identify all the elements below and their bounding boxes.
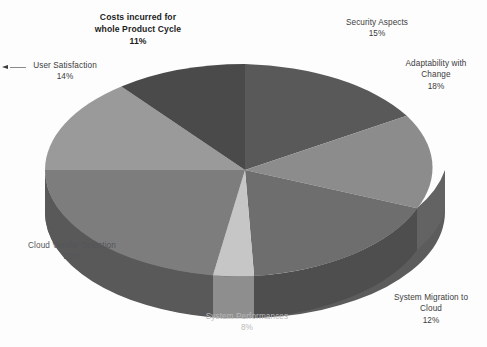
pie-label-performance-name: System Performances	[206, 312, 288, 321]
pie-label-vendor-name: Cloud Vendor Selection	[28, 241, 116, 250]
pie-label-vendor-pct: 22%	[8, 251, 136, 262]
pie-label-security: Security Aspects 15%	[318, 17, 436, 40]
pie-label-satisfaction: User Satisfaction 14%	[10, 60, 120, 83]
pie-label-migration-name-line1: System Migration to	[394, 293, 468, 302]
pie-label-adaptability: Adaptability with Change 18%	[386, 58, 486, 92]
pie-chart: Security Aspects 15% Adaptability with C…	[0, 0, 487, 347]
pie-label-migration-pct: 12%	[378, 315, 484, 326]
pie-label-migration-name-line2: Cloud	[420, 304, 442, 313]
pie-label-performance: System Performances 8%	[182, 311, 312, 334]
pie-label-migration: System Migration to Cloud 12%	[378, 292, 484, 326]
pie-label-costs-name-line1: Costs incurred for	[100, 12, 176, 22]
pie-label-costs: Costs incurred for whole Product Cycle 1…	[66, 12, 210, 48]
pie-label-costs-pct: 11%	[66, 36, 210, 48]
pie-label-performance-pct: 8%	[182, 322, 312, 333]
pie-label-satisfaction-pct: 14%	[10, 71, 120, 82]
pie-label-security-pct: 15%	[318, 28, 436, 39]
pie-label-adaptability-pct: 18%	[386, 81, 486, 92]
pie-label-satisfaction-name: User Satisfaction	[33, 61, 97, 70]
pie-label-costs-name-line2: whole Product Cycle	[95, 24, 181, 34]
pie-label-adaptability-name-line2: Change	[421, 70, 450, 79]
pie-label-vendor: Cloud Vendor Selection 22%	[8, 240, 136, 263]
pie-label-security-name: Security Aspects	[346, 18, 408, 27]
pie-label-adaptability-name-line1: Adaptability with	[406, 59, 467, 68]
